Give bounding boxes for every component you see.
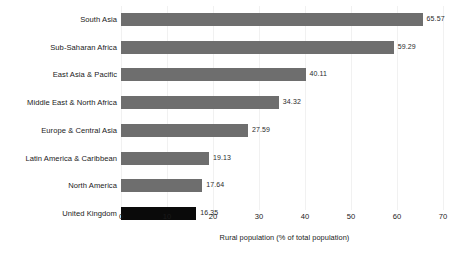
gridline — [443, 6, 444, 210]
bar-value-label: 65.57 — [427, 12, 445, 26]
bar-value-label: 59.29 — [398, 40, 416, 54]
x-axis-tick: 40 — [301, 210, 309, 224]
bar-value-label: 19.13 — [213, 151, 231, 165]
bar-row: 27.59 — [121, 117, 443, 145]
x-axis-title-text: Rural population (% of total population) — [220, 232, 350, 244]
bar[interactable] — [121, 68, 306, 81]
x-axis-tick: 50 — [347, 210, 355, 224]
x-axis-tick: 30 — [255, 210, 263, 224]
bar-row: 17.64 — [121, 172, 443, 200]
bar[interactable] — [121, 124, 248, 137]
x-axis-tick: 60 — [393, 210, 401, 224]
bar-row: 65.57 — [121, 6, 443, 34]
bar-value-label: 34.32 — [283, 95, 301, 109]
bar-value-label: 17.64 — [206, 178, 224, 192]
bar-value-label: 27.59 — [252, 123, 270, 137]
x-axis-tick: 10 — [163, 210, 171, 224]
category-label: Middle East & North Africa — [0, 96, 117, 109]
bar[interactable] — [121, 152, 209, 165]
plot-area: 65.5759.2940.1134.3227.5919.1317.6416.35 — [121, 0, 443, 212]
category-label: Europe & Central Asia — [0, 124, 117, 137]
category-label: North America — [0, 179, 117, 192]
x-axis-tick: 20 — [209, 210, 217, 224]
category-label: Latin America & Caribbean — [0, 152, 117, 165]
x-axis-tick: 0 — [119, 210, 123, 224]
category-label: United Kingdom — [0, 207, 117, 220]
bar-value-label: 40.11 — [310, 67, 328, 81]
category-label: South Asia — [0, 13, 117, 26]
category-axis-labels: South AsiaSub-Saharan AfricaEast Asia & … — [0, 0, 117, 212]
bar[interactable] — [121, 41, 394, 54]
bar[interactable] — [121, 13, 423, 26]
x-axis-tick-labels: 010203040506070 — [121, 210, 443, 226]
category-label: East Asia & Pacific — [0, 68, 117, 81]
x-axis-tick: 70 — [439, 210, 447, 224]
bar[interactable] — [121, 179, 202, 192]
x-axis-title: Rural population (% of total population) — [0, 232, 451, 244]
bar[interactable] — [121, 96, 279, 109]
bar-row: 19.13 — [121, 145, 443, 173]
bar-row: 59.29 — [121, 34, 443, 62]
category-label: Sub-Saharan Africa — [0, 41, 117, 54]
bar-row: 34.32 — [121, 89, 443, 117]
bar-row: 40.11 — [121, 61, 443, 89]
bar-chart: South AsiaSub-Saharan AfricaEast Asia & … — [0, 0, 451, 255]
